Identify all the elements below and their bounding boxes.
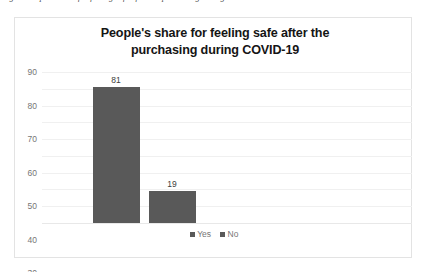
bar-yes[interactable]: [93, 87, 140, 223]
legend-item[interactable]: Yes: [190, 230, 211, 239]
y-axis-tick-label: 50: [28, 202, 37, 211]
figure-caption-text: Fig. 4. People's share for feeling safe …: [0, 0, 439, 4]
y-axis-tick-label: 80: [28, 101, 37, 110]
y-axis-tick-label: 70: [28, 135, 37, 144]
legend-item[interactable]: No: [220, 230, 238, 239]
y-axis-tick-label: 60: [28, 168, 37, 177]
gridline: 90: [42, 72, 412, 73]
chart-title-line-1: People's share for feeling safe after th…: [45, 25, 385, 42]
plot-area: 01020304050607080908119: [42, 72, 412, 223]
bar-value-label: 19: [167, 180, 176, 189]
figure-caption-cutoff: Fig. 4. People's share for feeling safe …: [0, 0, 439, 4]
gridline: 0: [42, 223, 412, 224]
chart-container: People's share for feeling safe after th…: [14, 17, 412, 258]
legend-swatch-icon: [220, 232, 225, 237]
chart-legend: Yes No: [15, 230, 413, 239]
bar-no[interactable]: [149, 191, 196, 223]
chart-title-line-2: purchasing during COVID-19: [45, 42, 385, 59]
y-axis-tick-label: 90: [28, 68, 37, 77]
legend-label: Yes: [197, 230, 211, 239]
legend-label: No: [228, 230, 239, 239]
chart-title: People's share for feeling safe after th…: [45, 25, 385, 58]
legend-swatch-icon: [190, 232, 195, 237]
bar-value-label: 81: [111, 76, 120, 85]
